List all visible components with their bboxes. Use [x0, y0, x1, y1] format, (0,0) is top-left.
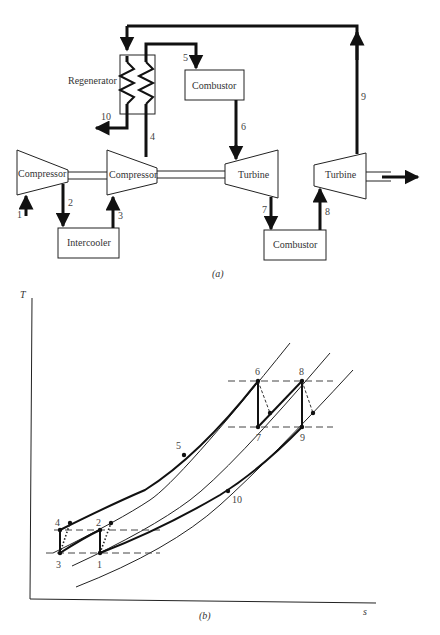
point-4-actual [68, 521, 72, 525]
state-points [58, 379, 315, 555]
state-9-label: 9 [361, 91, 366, 102]
point-6-label: 6 [255, 366, 260, 377]
point-7 [256, 425, 260, 429]
combustor-bottom-label: Combustor [273, 239, 318, 250]
x-axis-label: s [363, 606, 367, 617]
point-2-label: 2 [96, 517, 101, 528]
actual-expansion-6-7 [258, 381, 270, 413]
point-8-label: 8 [299, 366, 304, 377]
y-axis-label: T [20, 289, 27, 300]
state-6-label: 6 [241, 121, 246, 132]
combustor-top: Combustor [185, 70, 244, 100]
point-9 [300, 425, 304, 429]
state-4-label: 4 [150, 131, 155, 142]
combustor-bottom: Combustor [264, 230, 326, 260]
point-5-label: 5 [176, 440, 181, 451]
compressor-1: Compressor [17, 150, 68, 195]
point-8 [300, 379, 304, 383]
point-1 [98, 551, 102, 555]
point-4 [58, 528, 62, 532]
process-4-5-6 [60, 381, 258, 530]
state-10-label: 10 [101, 111, 111, 122]
compressor-2: Compressor [107, 150, 158, 195]
turbine-2-label: Turbine [325, 169, 357, 180]
schematic-diagram: Regenerator Combustor 9 10 4 5 6 Comp [17, 26, 418, 280]
point-2 [98, 528, 102, 532]
ts-diagram: T s [20, 289, 376, 622]
point-10 [226, 489, 230, 493]
point-9-label: 9 [300, 432, 305, 443]
process-3-2-curve [60, 530, 100, 553]
state-1-label: 1 [17, 209, 22, 220]
turbine-1: Turbine [225, 150, 278, 198]
state-3-label: 3 [118, 210, 123, 221]
state-2-label: 2 [68, 197, 73, 208]
combustor-top-label: Combustor [192, 80, 237, 91]
regenerator: Regenerator [68, 55, 155, 114]
point-2-actual [109, 521, 113, 525]
caption-a: (a) [212, 268, 224, 280]
point-1-label: 1 [97, 559, 102, 570]
point-7-actual [268, 411, 272, 415]
turbine-1-label: Turbine [238, 169, 270, 180]
point-3 [58, 551, 62, 555]
intercooler-label: Intercooler [67, 237, 112, 248]
point-4-label: 4 [55, 517, 60, 528]
process-7-8 [258, 381, 302, 427]
gas-turbine-cycle-figure: Regenerator Combustor 9 10 4 5 6 Comp [0, 0, 440, 635]
regenerator-label: Regenerator [68, 75, 118, 86]
point-3-label: 3 [56, 559, 61, 570]
state-5-label: 5 [183, 52, 188, 63]
turbine-2: Turbine [314, 153, 366, 199]
point-7-label: 7 [256, 432, 261, 443]
intercooler: Intercooler [58, 228, 119, 258]
caption-b: (b) [199, 610, 211, 622]
y-axis [30, 298, 32, 599]
state-7-label: 7 [262, 204, 267, 215]
state-8-label: 8 [325, 206, 330, 217]
point-6 [256, 379, 260, 383]
x-axis [30, 599, 376, 603]
point-5 [182, 453, 186, 457]
point-10-label: 10 [232, 494, 242, 505]
compressor-1-label: Compressor [18, 168, 67, 179]
actual-expansion-8-9 [302, 381, 313, 413]
point-9-actual [311, 411, 315, 415]
compressor-2-label: Compressor [109, 169, 158, 180]
isobar-mid [72, 353, 330, 566]
